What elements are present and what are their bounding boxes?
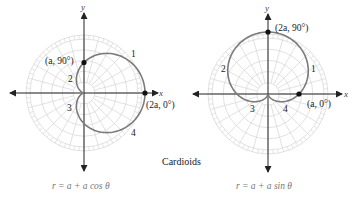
left-quadrant-label-3: 3 [67,104,72,114]
right-quadrant-label-2: 2 [221,65,226,75]
left-quadrant-label-4: 4 [131,129,136,139]
left-quadrant-label-1: 1 [131,50,136,60]
left-quadrant-label-2: 2 [68,75,73,85]
left-point-label-a-90: (a, 90°) [45,57,74,67]
right-quadrant-label-3: 3 [250,105,255,115]
right-point-label-2a-90: (2a, 90°) [275,24,308,34]
left-point-label-2a-0: (2a, 0°) [146,101,175,111]
right-y-axis-label: y [265,4,269,13]
left-point-2a-0 [142,90,147,95]
left-equation: r = a + a cos θ [52,182,110,192]
left-y-axis-label: y [81,3,85,12]
right-x-axis-label: x [344,90,348,99]
right-point-2a-90 [265,29,270,34]
right-point-label-a-0: (a, 0°) [307,100,331,110]
right-quadrant-label-1: 1 [311,65,316,75]
right-point-a-0 [296,91,301,96]
right-quadrant-label-4: 4 [283,105,288,115]
right-equation: r = a + a sin θ [236,182,292,192]
figure-caption: Cardioids [162,157,201,167]
left-point-a-90 [81,60,86,65]
left-x-axis-label: x [159,89,163,98]
